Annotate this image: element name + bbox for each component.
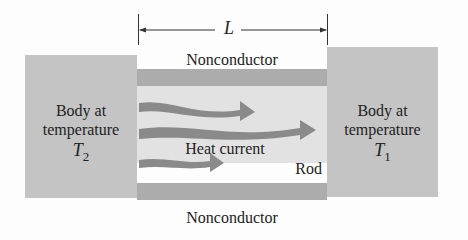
- right-body-temperature-symbol: T1: [327, 141, 438, 166]
- right-body-label: Body at temperature T1: [327, 101, 438, 166]
- top-nonconductor-label: Nonconductor: [137, 50, 327, 69]
- rod-label: Rod: [278, 159, 322, 178]
- right-body-line2: temperature: [327, 120, 438, 139]
- left-body-line1: Body at: [25, 101, 137, 120]
- right-body-line1: Body at: [327, 101, 438, 120]
- left-body-label: Body at temperature T2: [25, 101, 137, 166]
- length-label: L: [218, 19, 240, 38]
- temperature-subscript: 1: [384, 149, 391, 164]
- heat-arrow-2-icon: [139, 120, 316, 140]
- left-body-temperature-symbol: T2: [25, 141, 137, 166]
- dimension-arrow-left-icon: [139, 28, 146, 33]
- heat-arrow-1-icon: [139, 101, 255, 121]
- left-body-line2: temperature: [25, 120, 137, 139]
- dimension-arrow-right-icon: [320, 28, 327, 33]
- temperature-symbol: T: [73, 140, 83, 160]
- bottom-nonconductor-label: Nonconductor: [137, 208, 327, 227]
- heat-current-label: Heat current: [160, 139, 290, 158]
- temperature-symbol: T: [374, 140, 384, 160]
- temperature-subscript: 2: [83, 149, 90, 164]
